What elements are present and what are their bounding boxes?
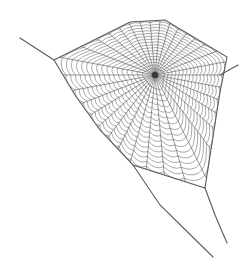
radial-thread <box>155 75 206 178</box>
anchor-thread <box>220 65 238 75</box>
radial-thread <box>155 38 195 75</box>
spiral-thread <box>92 39 203 147</box>
spider-web <box>0 0 252 278</box>
radial-thread <box>155 75 164 175</box>
radial-thread <box>98 75 155 127</box>
anchor-thread <box>20 38 54 60</box>
web-hub <box>152 72 158 78</box>
web-spiral-threads <box>61 21 224 180</box>
anchor-thread <box>205 188 227 243</box>
spiral-thread <box>76 30 213 163</box>
